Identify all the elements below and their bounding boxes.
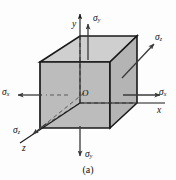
origin-label: O bbox=[82, 89, 89, 98]
sigma-subscript: z bbox=[18, 129, 20, 135]
y-axis-label: y bbox=[72, 20, 76, 30]
x-axis-label: x bbox=[157, 106, 161, 116]
sigma-z-lower-label: σz bbox=[13, 126, 20, 136]
sigma-x-left-label: σx bbox=[2, 88, 9, 98]
z-axis-label: z bbox=[22, 144, 26, 154]
sigma-y-bottom-label: σy bbox=[85, 150, 92, 160]
sigma-subscript: z bbox=[160, 36, 162, 42]
sigma-x-right-label: σx bbox=[159, 88, 166, 98]
sigma-z-upper-label: σz bbox=[155, 33, 162, 43]
sigma-subscript: y bbox=[98, 17, 101, 23]
stress-element-figure: y x z O σy σy σx σx σz σz (a) bbox=[0, 0, 176, 180]
sigma-y-top-label: σy bbox=[93, 14, 100, 24]
sigma-subscript: x bbox=[7, 91, 10, 97]
figure-caption: (a) bbox=[0, 164, 176, 175]
sigma-subscript: y bbox=[90, 153, 93, 159]
sigma-subscript: x bbox=[164, 91, 167, 97]
